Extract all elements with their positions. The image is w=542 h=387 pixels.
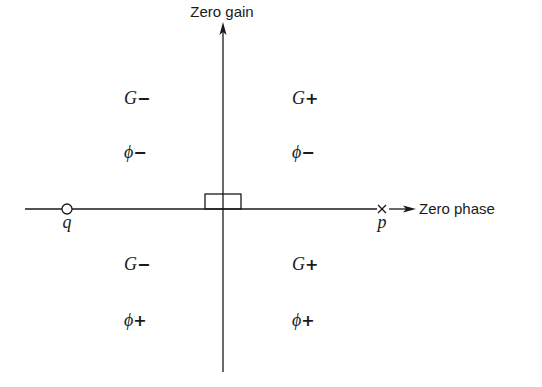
- quadrant-lower-right: G+ ϕ+: [292, 254, 318, 330]
- svg-text:ϕ−: ϕ−: [124, 142, 147, 162]
- gain-symbol: G: [124, 254, 137, 274]
- gain-symbol: G: [292, 88, 305, 108]
- gain-phase-diagram: Zero gain q p Zero phase G− ϕ− G+ ϕ−: [0, 0, 542, 387]
- zero-phase-arrow: [389, 206, 416, 213]
- zero-label: q: [63, 212, 72, 232]
- phase-sign: +: [301, 311, 314, 330]
- quadrant-upper-left: G− ϕ−: [124, 88, 150, 162]
- horizontal-axis-label: Zero phase: [419, 200, 495, 217]
- vertical-axis: [220, 22, 227, 372]
- svg-text:G+: G+: [292, 88, 318, 108]
- gain-symbol: G: [292, 254, 305, 274]
- svg-text:ϕ+: ϕ+: [292, 310, 315, 330]
- phase-symbol: ϕ: [124, 310, 133, 330]
- gain-symbol: G: [124, 88, 137, 108]
- phase-sign: +: [133, 311, 146, 330]
- vertical-axis-label: Zero gain: [190, 3, 253, 20]
- svg-text:G−: G−: [124, 88, 150, 108]
- gain-sign: −: [137, 89, 150, 108]
- gain-sign: −: [137, 255, 150, 274]
- phase-symbol: ϕ: [124, 142, 133, 162]
- svg-text:G−: G−: [124, 254, 150, 274]
- phase-sign: −: [133, 143, 146, 162]
- pole-label: p: [376, 212, 387, 232]
- quadrant-upper-right: G+ ϕ−: [292, 88, 318, 162]
- svg-text:G+: G+: [292, 254, 318, 274]
- svg-text:ϕ−: ϕ−: [292, 142, 315, 162]
- gain-sign: +: [305, 255, 318, 274]
- phase-symbol: ϕ: [292, 310, 301, 330]
- quadrant-lower-left: G− ϕ+: [124, 254, 150, 330]
- gain-sign: +: [305, 89, 318, 108]
- svg-text:ϕ+: ϕ+: [124, 310, 147, 330]
- phase-symbol: ϕ: [292, 142, 301, 162]
- phase-sign: −: [301, 143, 314, 162]
